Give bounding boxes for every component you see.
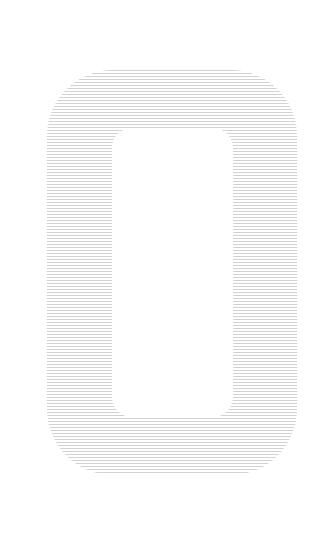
figure-description: Striped rounded-rectangle ring (zero-lik… bbox=[0, 0, 1, 1]
canvas: Striped rounded-rectangle ring (zero-lik… bbox=[0, 0, 310, 549]
ring-inner-cutout bbox=[112, 128, 233, 417]
